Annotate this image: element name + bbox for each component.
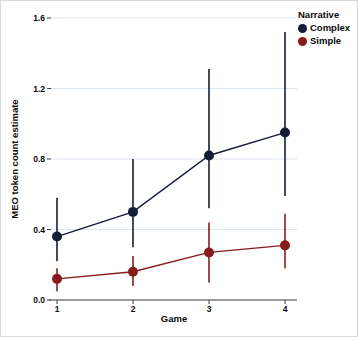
line-chart-figure: 12340.00.40.81.21.6 MEO token count esti… xyxy=(0,0,358,337)
y-tick-label: 0.8 xyxy=(33,154,45,164)
plot-svg: 12340.00.40.81.21.6 xyxy=(1,1,358,337)
data-point-simple xyxy=(280,240,290,250)
x-tick-label: 2 xyxy=(131,304,136,314)
x-tick-label: 1 xyxy=(55,304,60,314)
complex-marker-icon xyxy=(298,24,307,33)
legend-label-complex: Complex xyxy=(310,22,350,34)
legend-item-simple: Simple xyxy=(298,35,350,47)
x-axis-title: Game xyxy=(161,313,187,324)
simple-marker-icon xyxy=(298,37,307,46)
data-point-simple xyxy=(128,267,138,277)
data-point-complex xyxy=(204,150,214,160)
y-tick-label: 1.2 xyxy=(33,84,45,94)
x-tick-label: 3 xyxy=(207,304,212,314)
y-axis-title: MEO token count estimate xyxy=(9,99,20,218)
legend-label-simple: Simple xyxy=(310,35,341,47)
x-tick-label: 4 xyxy=(283,304,288,314)
legend-item-complex: Complex xyxy=(298,22,350,34)
series-line-simple xyxy=(57,245,285,278)
data-point-complex xyxy=(280,128,290,138)
y-tick-label: 1.6 xyxy=(33,13,45,23)
data-point-simple xyxy=(52,274,62,284)
data-point-simple xyxy=(204,247,214,257)
y-tick-label: 0.0 xyxy=(33,295,45,305)
y-tick-label: 0.4 xyxy=(33,225,45,235)
series-line-complex xyxy=(57,133,285,237)
legend-title: Narrative xyxy=(298,9,350,21)
data-point-complex xyxy=(52,232,62,242)
legend: Narrative Complex Simple xyxy=(298,9,350,47)
data-point-complex xyxy=(128,207,138,217)
